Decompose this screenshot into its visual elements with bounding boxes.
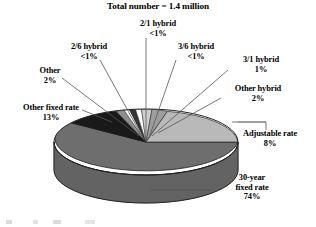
label-adjustable-rate-name: Adjustable rate: [243, 129, 297, 138]
label-other-percent: 2%: [22, 76, 78, 86]
label-30-year-line1: 30-year: [239, 173, 265, 182]
label-2-1-hybrid-name: 2/1 hybrid: [140, 19, 176, 28]
label-other-hybrid: Other hybrid 2%: [222, 84, 294, 103]
page-edge-artifact: [6, 220, 110, 224]
label-2-6-hybrid: 2/6 hybrid <1%: [53, 42, 125, 61]
label-3-1-hybrid: 3/1 hybrid 1%: [230, 55, 292, 74]
pie-chart-figure: Total number = 1.4 million: [0, 0, 316, 227]
label-2-6-hybrid-name: 2/6 hybrid: [71, 42, 107, 51]
label-3-1-hybrid-percent: 1%: [230, 65, 292, 75]
label-30-year-fixed-rate: 30-year fixed rate 74%: [214, 173, 290, 202]
label-other: Other 2%: [22, 66, 78, 85]
label-2-1-hybrid: 2/1 hybrid <1%: [118, 19, 198, 38]
label-adjustable-rate: Adjustable rate 8%: [232, 129, 308, 148]
label-3-1-hybrid-name: 3/1 hybrid: [243, 55, 279, 64]
label-other-name: Other: [40, 66, 61, 75]
label-30-year-line2: fixed rate: [214, 183, 290, 193]
label-other-hybrid-percent: 2%: [222, 94, 294, 104]
label-other-hybrid-name: Other hybrid: [235, 84, 281, 93]
label-3-6-hybrid-name: 3/6 hybrid: [178, 42, 214, 51]
label-other-fixed-rate: Other fixed rate 13%: [0, 103, 103, 122]
label-2-6-hybrid-percent: <1%: [53, 52, 125, 62]
label-2-1-hybrid-percent: <1%: [118, 29, 198, 39]
label-3-6-hybrid: 3/6 hybrid <1%: [160, 42, 232, 61]
label-adjustable-rate-percent: 8%: [232, 139, 308, 149]
label-other-fixed-rate-percent: 13%: [0, 113, 103, 123]
label-other-fixed-rate-name: Other fixed rate: [23, 103, 79, 112]
label-3-6-hybrid-percent: <1%: [160, 52, 232, 62]
label-30-year-percent: 74%: [214, 192, 290, 202]
